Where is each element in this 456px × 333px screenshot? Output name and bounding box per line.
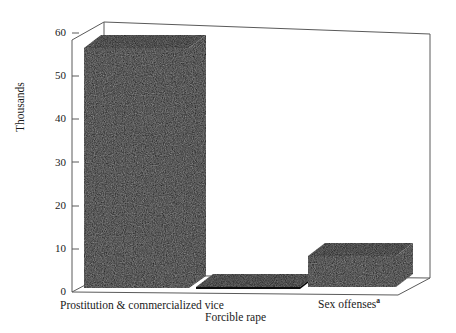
x-label-sex-offenses-footnote: a xyxy=(376,296,380,305)
bar-1-side-face xyxy=(189,35,206,288)
floor-front-edge xyxy=(72,292,398,295)
y-axis-title: Thousands xyxy=(14,82,26,132)
y-tick-label-20: 20 xyxy=(40,200,66,211)
chart-canvas xyxy=(0,0,456,333)
bar-chart-figure: 60 50 40 30 20 10 0 Thousands Prostituti… xyxy=(0,0,456,333)
bar-prostitution xyxy=(84,35,206,288)
y-tick-marks xyxy=(72,33,79,249)
bar-1-top-face xyxy=(84,35,206,48)
bar-3-top-face xyxy=(308,243,413,256)
y-tick-label-60: 60 xyxy=(40,27,66,38)
x-label-prostitution-text: Prostitution & commercialized vice xyxy=(60,299,224,311)
bar-2-top-face xyxy=(196,274,317,287)
bar-3-front-face xyxy=(308,256,396,287)
x-label-forcible-rape: Forcible rape xyxy=(205,311,266,323)
y-tick-label-50: 50 xyxy=(40,70,66,81)
bar-1-front-face xyxy=(84,48,189,288)
x-label-prostitution: Prostitution & commercialized vice xyxy=(60,299,224,311)
x-label-forcible-rape-text: Forcible rape xyxy=(205,311,266,323)
x-label-sex-offenses: Sex offensesa xyxy=(318,296,380,310)
y-tick-label-0: 0 xyxy=(40,286,66,297)
y-tick-label-30: 30 xyxy=(40,157,66,168)
bar-sex-offenses xyxy=(308,243,413,287)
bar-2-front-face xyxy=(196,287,300,289)
y-tick-label-40: 40 xyxy=(40,113,66,124)
bar-forcible-rape xyxy=(196,274,317,289)
x-label-sex-offenses-text: Sex offenses xyxy=(318,298,376,310)
back-top-edge xyxy=(104,22,430,34)
y-tick-label-10: 10 xyxy=(40,243,66,254)
